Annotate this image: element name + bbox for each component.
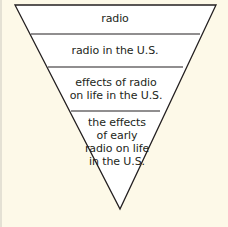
level-4-label: the effects of early radio on life in th… — [82, 116, 152, 168]
inverted-triangle — [0, 0, 228, 227]
level-1-label: radio — [40, 12, 190, 25]
level-1-text: radio — [101, 12, 129, 25]
level-4-text: the effects of early radio on life in th… — [85, 116, 149, 168]
level-3-label: effects of radio on life in the U.S. — [68, 76, 164, 102]
level-2-label: radio in the U.S. — [50, 44, 180, 57]
level-3-text: effects of radio on life in the U.S. — [70, 76, 163, 102]
level-2-text: radio in the U.S. — [72, 44, 159, 57]
